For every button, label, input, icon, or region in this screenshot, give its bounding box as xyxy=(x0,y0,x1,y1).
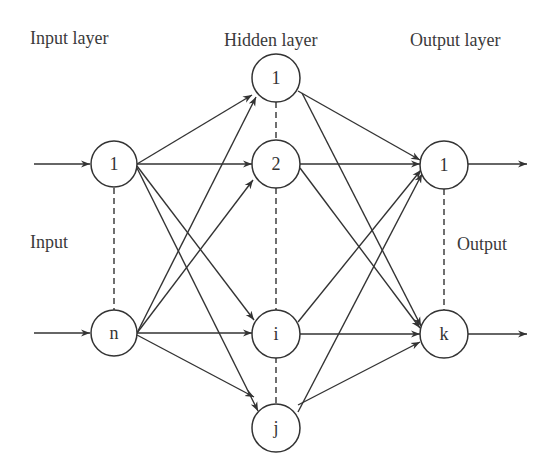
connection-arrow xyxy=(298,91,420,160)
hidden-node-2-label: 2 xyxy=(272,154,281,174)
connection-arrow xyxy=(137,97,256,333)
hidden-node-1-label: 1 xyxy=(272,68,281,88)
connection-arrow xyxy=(300,168,420,328)
input-node-1-label: 1 xyxy=(110,154,119,174)
connection-arrow xyxy=(298,342,420,405)
network-diagram: 1 n 1 2 i j 1 k xyxy=(0,0,547,469)
input-node-n-label: n xyxy=(110,323,119,343)
hidden-node-i-label: i xyxy=(273,324,278,344)
output-node-1-label: 1 xyxy=(440,155,449,175)
connection-arrow xyxy=(137,335,254,397)
connection-arrow xyxy=(298,170,421,322)
hidden-node-j-label: j xyxy=(272,418,278,438)
output-node-k-label: k xyxy=(440,324,449,344)
connection-arrow xyxy=(137,95,252,164)
connection-arrow xyxy=(137,168,258,411)
